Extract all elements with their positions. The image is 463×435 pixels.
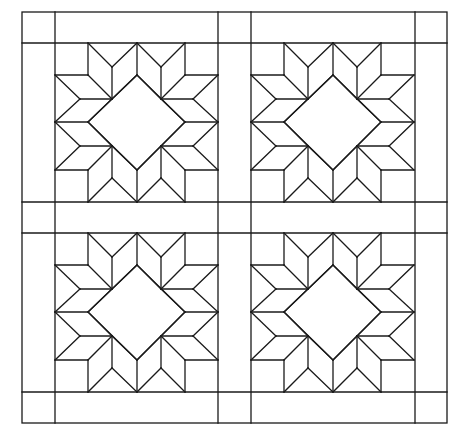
star-block-top-left <box>55 43 218 202</box>
quilt-svg <box>0 0 463 435</box>
quilt-diagram <box>0 0 463 435</box>
outer-border <box>22 12 447 423</box>
star-block-bottom-left <box>55 233 218 392</box>
star-block-top-right <box>251 43 414 202</box>
star-block-bottom-right <box>251 233 414 392</box>
sashing-lines <box>22 12 447 423</box>
